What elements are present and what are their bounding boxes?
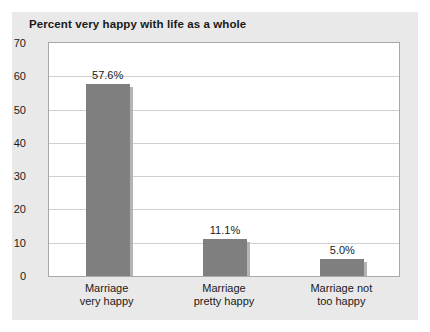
bar-group: 57.6% (86, 43, 130, 276)
y-tick-label-20: 20 (0, 203, 26, 215)
y-tick-label-40: 40 (0, 137, 26, 149)
chart-figure: Percent very happy with life as a whole … (12, 12, 418, 320)
x-tick-label-line: Marriage not (283, 282, 400, 295)
bar-group: 11.1% (203, 43, 247, 276)
x-tick-label-1: Marriagepretty happy (165, 282, 282, 308)
y-tick-label-70: 70 (0, 37, 26, 49)
bar[interactable] (86, 84, 130, 276)
x-tick-label-line: Marriage (165, 282, 282, 295)
chart-title: Percent very happy with life as a whole (29, 18, 246, 30)
plot-area: 57.6%11.1%5.0% (48, 42, 400, 277)
bar-edge-highlight (130, 87, 133, 276)
bar-edge-highlight (364, 262, 367, 276)
y-tick-label-0: 0 (0, 270, 26, 282)
bar-value-label: 5.0% (330, 244, 355, 256)
bar[interactable] (203, 239, 247, 276)
x-tick-label-line: pretty happy (165, 295, 282, 308)
y-tick-label-10: 10 (0, 237, 26, 249)
y-tick-label-60: 60 (0, 70, 26, 82)
bar[interactable] (320, 259, 364, 276)
bar-value-label: 11.1% (210, 224, 240, 236)
x-tick-label-line: Marriage (48, 282, 165, 295)
y-tick-label-50: 50 (0, 104, 26, 116)
x-tick-label-0: Marriagevery happy (48, 282, 165, 308)
x-tick-label-line: very happy (48, 295, 165, 308)
bar-edge-highlight (247, 242, 250, 276)
y-tick-label-30: 30 (0, 170, 26, 182)
x-tick-label-line: too happy (283, 295, 400, 308)
bar-group: 5.0% (320, 43, 364, 276)
x-tick-label-2: Marriage nottoo happy (283, 282, 400, 308)
bar-value-label: 57.6% (92, 69, 123, 81)
